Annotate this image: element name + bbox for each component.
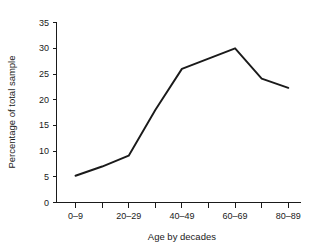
y-tick-label-10: 10 xyxy=(39,146,49,156)
x-axis-title: Age by decades xyxy=(148,231,216,242)
y-tick-label-35: 35 xyxy=(39,18,49,28)
x-tick-label-6: 60–69 xyxy=(223,211,248,221)
y-tick-label-30: 30 xyxy=(39,43,49,53)
y-tick-label-25: 25 xyxy=(39,69,49,79)
x-tick-label-0: 0–9 xyxy=(68,211,83,221)
x-tick-label-8: 80–89 xyxy=(276,211,301,221)
y-axis-title: Percentage of total sample xyxy=(6,55,17,168)
x-tick-label-4: 40–49 xyxy=(169,211,194,221)
y-tick-label-5: 5 xyxy=(44,172,49,182)
chart-page: 0 5 10 15 20 25 30 35 xyxy=(0,0,324,252)
y-tick-label-0: 0 xyxy=(44,198,49,208)
line-chart: 0 5 10 15 20 25 30 35 xyxy=(0,0,324,252)
y-tick-label-20: 20 xyxy=(39,95,49,105)
x-tick-label-2: 20–29 xyxy=(116,211,141,221)
y-tick-label-15: 15 xyxy=(39,120,49,130)
